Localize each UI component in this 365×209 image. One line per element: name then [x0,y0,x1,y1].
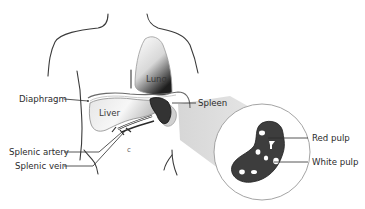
navel-mark: ᴄ [127,146,131,154]
red-pulp-label: Red pulp [312,133,350,143]
white-pulp-label: White pulp [312,157,358,167]
spleen-anatomy-diagram: Lung Liver ᴄ Diaphragm Spleen Splenic [0,0,365,209]
splenic-vein-leader [64,130,126,166]
lung [135,37,172,96]
diaphragm-label: Diaphragm [19,94,67,104]
splenic-vein-label: Splenic vein [15,161,67,171]
diaphragm-leader [64,99,88,101]
spleen-label: Spleen [198,98,227,108]
torso-outline [48,14,198,175]
splenic-artery-label: Splenic artery [9,147,69,157]
liver-label: Liver [99,108,121,118]
lung-label: Lung [146,74,167,84]
splenic-artery-leader [64,132,122,152]
